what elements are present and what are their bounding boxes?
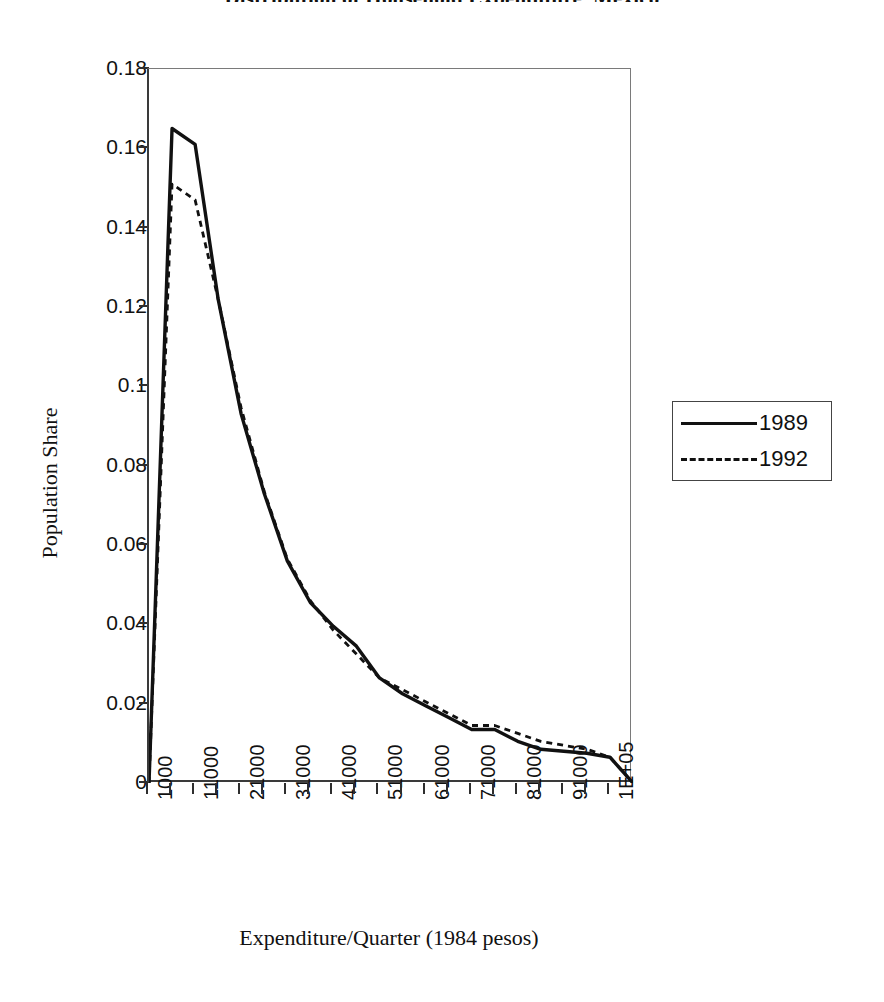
x-tick-mark — [284, 783, 286, 794]
x-tick-mark-minor — [400, 783, 402, 794]
x-axis-title: Expenditure/Quarter (1984 pesos) — [147, 925, 631, 951]
x-tick-label: 1E+05 — [616, 742, 636, 800]
y-tick-label: 0.08 — [77, 454, 147, 475]
x-tick-mark — [376, 783, 378, 794]
y-tick-label: 0.12 — [77, 295, 147, 316]
chart-legend: 1989 1992 — [672, 401, 832, 481]
x-tick-label: 61000 — [432, 744, 452, 800]
x-tick-mark-minor — [353, 783, 355, 794]
x-tick-label: 21000 — [247, 744, 267, 800]
series-line-1989 — [149, 129, 633, 784]
x-tick-mark — [146, 783, 148, 794]
legend-label: 1989 — [759, 412, 808, 434]
chart-canvas: Distribution of Household Expenditure, M… — [0, 0, 884, 1002]
x-tick-label: 81000 — [524, 744, 544, 800]
x-tick-label: 31000 — [293, 744, 313, 800]
x-tick-mark — [423, 783, 425, 794]
y-tick-label: 0.02 — [77, 692, 147, 713]
x-tick-label: 11000 — [201, 746, 221, 800]
x-tick-label: 91000 — [570, 744, 590, 800]
legend-line-solid-icon — [681, 416, 757, 430]
y-tick-label: 0.1 — [77, 374, 147, 395]
y-axis: 00.020.040.060.080.10.120.140.160.18 — [0, 0, 147, 1002]
x-tick-mark — [192, 783, 194, 794]
x-tick-mark-minor — [492, 783, 494, 794]
x-tick-label: 71000 — [478, 744, 498, 800]
x-tick-mark-minor — [169, 783, 171, 794]
x-tick-mark-minor — [307, 783, 309, 794]
x-tick-label: 51000 — [385, 744, 405, 800]
legend-line-dashed-icon — [681, 452, 757, 466]
y-tick-label: 0.06 — [77, 533, 147, 554]
y-tick-label: 0 — [77, 771, 147, 792]
x-tick-mark — [330, 783, 332, 794]
x-tick-label: 1000 — [155, 756, 175, 801]
legend-label: 1992 — [759, 448, 808, 470]
y-tick-label: 0.14 — [77, 216, 147, 237]
x-tick-label: 41000 — [339, 744, 359, 800]
y-axis-title: Population Share — [37, 373, 63, 593]
x-tick-mark-minor — [446, 783, 448, 794]
x-tick-mark-minor — [584, 783, 586, 794]
series-lines — [149, 69, 633, 783]
x-tick-mark-minor — [261, 783, 263, 794]
x-tick-mark — [561, 783, 563, 794]
x-tick-mark — [607, 783, 609, 794]
y-tick-label: 0.16 — [77, 136, 147, 157]
y-tick-label: 0.18 — [77, 57, 147, 78]
x-tick-mark-minor — [215, 783, 217, 794]
x-tick-mark — [238, 783, 240, 794]
series-line-1992 — [149, 184, 633, 783]
x-tick-mark — [469, 783, 471, 794]
y-tick-label: 0.04 — [77, 612, 147, 633]
plot-area — [147, 68, 631, 782]
legend-item-1989: 1989 — [673, 406, 833, 440]
x-tick-mark — [515, 783, 517, 794]
legend-item-1992: 1992 — [673, 442, 833, 476]
x-tick-mark-minor — [538, 783, 540, 794]
